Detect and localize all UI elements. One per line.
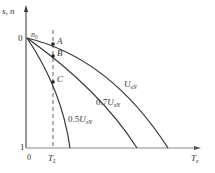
point-b-label: B [57,48,63,58]
curve-usn-label: UsN [124,79,138,90]
point-c [51,80,55,84]
x-axis-arrow-icon [194,146,201,150]
curve-07usn [27,38,137,148]
point-a [51,42,55,46]
tl-label: TL [48,153,57,164]
y-top-value: 0 [18,33,23,43]
x-origin-label: 0 [27,153,31,162]
point-c-label: C [57,74,64,84]
curve-05usn-label: 0.5UsN [68,114,93,125]
point-a-label: A [56,36,63,46]
characteristic-diagram: s, n 0 n₀ 1 0 TL Te A B C UsN 0.7UsN 0.5… [0,0,215,173]
y-axis-arrow-icon [24,5,28,12]
curve-07usn-label: 0.7UsN [96,97,121,108]
point-b [51,54,55,58]
y-axis-label: s, n [2,6,15,16]
n0-label: n₀ [31,30,38,39]
y-bottom-value: 1 [20,142,25,152]
te-label: Te [191,153,199,164]
